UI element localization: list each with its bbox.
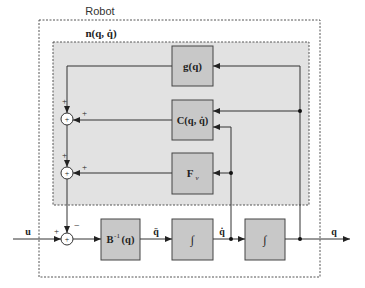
svg-text:g(q): g(q): [183, 60, 202, 73]
sum-junction-bottom: +: [61, 233, 73, 245]
branch-dot-qdot-bottom: [229, 237, 233, 241]
sign-top-upper: +: [62, 96, 67, 106]
sign-middle-upper: +: [62, 150, 67, 160]
branch-dot-q-upper: [298, 109, 302, 113]
sum-junction-top: +: [61, 113, 73, 125]
integrator-1-block: ∫: [172, 219, 213, 260]
svg-text:+: +: [65, 235, 70, 244]
svg-text:F: F: [187, 167, 194, 179]
robot-label: Robot: [85, 5, 114, 17]
svg-text:+: +: [65, 169, 70, 178]
inverse-inertia-block: B -1 (q): [101, 219, 140, 260]
integrator-2-block: ∫: [245, 219, 285, 260]
velocity-label: q̇: [219, 226, 225, 237]
acceleration-label: q̈: [153, 226, 159, 237]
svg-text:∫: ∫: [262, 233, 267, 247]
branch-dot-qdot-mid: [229, 171, 233, 175]
friction-block: F v: [172, 153, 213, 194]
sign-middle-right: +: [82, 162, 87, 172]
sign-bottom-left: +: [54, 226, 59, 236]
sum-junction-middle: +: [61, 167, 73, 179]
robot-block-diagram: Robot n(q, q̇) g(q) C(q, q̇) F v B -1 (q…: [0, 0, 365, 288]
svg-text:(q): (q): [122, 234, 135, 246]
sign-top-right: +: [82, 108, 87, 118]
svg-text:B: B: [106, 234, 113, 245]
output-signal-label: q: [331, 226, 337, 237]
svg-text:+: +: [65, 115, 70, 124]
nonlinear-terms-label: n(q, q̇): [85, 27, 117, 40]
coriolis-block: C(q, q̇): [172, 100, 213, 140]
input-signal-label: u: [25, 226, 31, 237]
svg-text:∫: ∫: [190, 233, 195, 247]
svg-text:C(q, q̇): C(q, q̇): [177, 115, 209, 127]
gravity-block: g(q): [172, 46, 213, 86]
branch-dot-q-output: [298, 237, 302, 241]
svg-text:-1: -1: [114, 232, 120, 240]
sign-bottom-upper: −: [74, 220, 80, 231]
